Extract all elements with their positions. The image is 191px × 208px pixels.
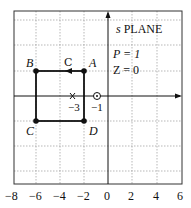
point-a	[81, 68, 87, 74]
imag-axis-arrow-icon	[106, 11, 111, 18]
zeros-count: Z = 0	[113, 63, 139, 77]
svg-text:6: 6	[177, 189, 183, 203]
label-a: A	[88, 56, 97, 70]
x-tick-labels: −8 −6 −4 −2 0 2 4 6	[5, 189, 183, 203]
label-c: C	[26, 124, 35, 138]
poles-count: P = 1	[112, 47, 140, 61]
svg-text:2: 2	[128, 189, 134, 203]
svg-text:0: 0	[104, 189, 110, 203]
point-b	[33, 68, 39, 74]
contour-label: C	[64, 56, 72, 69]
svg-text:−2: −2	[77, 189, 90, 203]
real-axis-arrow-icon	[175, 94, 182, 99]
s-plane-diagram: B A C D C −3 −1 s PLANE P = 1 Z = 0 −8 −…	[0, 0, 191, 208]
svg-text:4: 4	[153, 189, 159, 203]
svg-text:−4: −4	[53, 189, 66, 203]
label-d: D	[88, 124, 98, 138]
point-d	[81, 118, 87, 124]
plane-title: s PLANE	[116, 22, 162, 36]
zero-marker-label: −1	[91, 101, 103, 113]
svg-text:−8: −8	[5, 189, 18, 203]
pole-label: −3	[68, 101, 80, 113]
svg-text:−6: −6	[29, 189, 42, 203]
circled-dot-center	[96, 95, 98, 97]
label-b: B	[26, 56, 34, 70]
point-c	[33, 118, 39, 124]
